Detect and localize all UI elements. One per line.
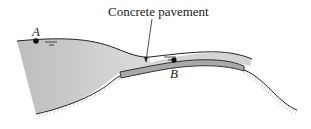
point-b-marker bbox=[171, 57, 176, 62]
callout-leader bbox=[146, 19, 152, 61]
point-a-label: A bbox=[32, 24, 40, 40]
concrete-pavement-label: Concrete pavement bbox=[108, 4, 209, 20]
point-b-label: B bbox=[170, 66, 178, 82]
